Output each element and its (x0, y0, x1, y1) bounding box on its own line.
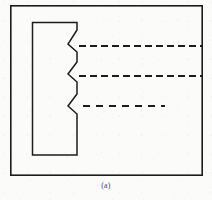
figure-drawing-canvas (0, 0, 212, 200)
figure-panel: (a) (0, 0, 212, 200)
